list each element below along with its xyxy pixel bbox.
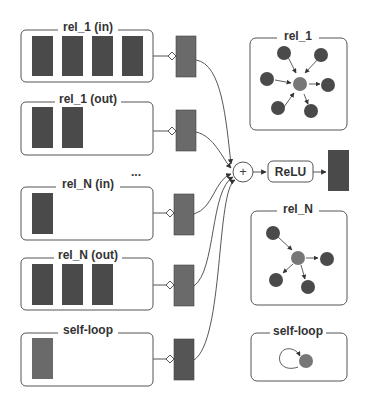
transformed-feature xyxy=(174,339,194,380)
weight-diamond-icon xyxy=(166,209,174,217)
graph-node xyxy=(271,101,285,115)
group-rel1-in: rel_1 (in) xyxy=(21,20,196,82)
relu-label: ReLU xyxy=(275,165,306,179)
panel-self-loop: self-loop xyxy=(251,324,347,381)
weight-diamond-icon xyxy=(168,127,176,135)
graph-node xyxy=(277,46,291,60)
group-label: rel_N (out) xyxy=(58,248,118,262)
panel-label: rel_N xyxy=(283,202,313,216)
message-connectors xyxy=(194,60,235,360)
ellipsis: ... xyxy=(131,165,141,179)
panel-label: self-loop xyxy=(273,324,323,338)
feature-block xyxy=(32,193,53,234)
graph-node xyxy=(266,226,280,240)
transformed-feature xyxy=(174,265,194,306)
output-feature xyxy=(328,150,349,191)
self-loop-arrow-icon xyxy=(280,349,300,369)
graph-node xyxy=(301,280,315,294)
center-node xyxy=(299,354,313,368)
svg-text:+: + xyxy=(239,164,247,179)
feature-block xyxy=(92,36,113,76)
group-relN-out: rel_N (out) xyxy=(21,248,194,310)
relu-block: ReLU xyxy=(268,161,313,182)
sum-node: + xyxy=(233,162,253,182)
graph-node xyxy=(314,48,328,62)
feature-block xyxy=(62,264,83,305)
group-rel1-out: rel_1 (out) xyxy=(21,92,196,155)
center-node xyxy=(291,251,305,265)
graph-node xyxy=(320,252,334,266)
feature-block xyxy=(32,107,53,148)
feature-block xyxy=(32,338,53,379)
weight-diamond-icon xyxy=(166,355,174,363)
feature-block xyxy=(32,264,53,305)
group-label: rel_1 (in) xyxy=(63,20,113,34)
feature-block xyxy=(62,36,83,76)
center-node xyxy=(293,77,307,91)
feature-block xyxy=(62,107,83,148)
graph-node xyxy=(260,72,274,86)
group-self-loop: self-loop xyxy=(21,323,194,386)
panel-relN: rel_N xyxy=(251,202,347,305)
group-relN-in: rel_N (in) xyxy=(21,177,194,240)
weight-diamond-icon xyxy=(168,52,176,60)
feature-block xyxy=(92,264,113,305)
graph-node xyxy=(269,273,283,287)
group-label: rel_N (in) xyxy=(62,177,114,191)
panel-rel1: rel_1 xyxy=(250,29,347,130)
graph-node xyxy=(304,104,318,118)
graph-node xyxy=(321,78,335,92)
feature-block xyxy=(32,36,53,76)
transformed-feature xyxy=(176,110,196,151)
transformed-feature xyxy=(176,36,196,77)
transformed-feature xyxy=(174,194,194,235)
feature-block xyxy=(122,36,143,76)
group-label: self-loop xyxy=(63,323,113,337)
rgcn-diagram: rel_1 (in) rel_1 (out) ... rel_N (in) re… xyxy=(0,0,366,400)
weight-diamond-icon xyxy=(166,281,174,289)
group-label: rel_1 (out) xyxy=(59,92,117,106)
panel-label: rel_1 xyxy=(284,29,312,43)
